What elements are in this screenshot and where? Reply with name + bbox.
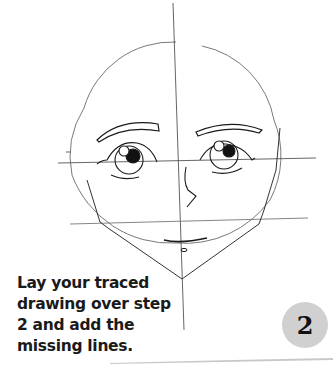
instruction-line-4: missing lines. (17, 336, 167, 357)
jaw-outline (87, 128, 280, 279)
instruction-line-2: drawing over step (17, 294, 167, 315)
page-shadow-line (110, 358, 333, 364)
chin-mark (181, 248, 187, 251)
instruction-text: Lay your traced drawing over step 2 and … (17, 273, 167, 357)
vertical-guide (173, 3, 184, 330)
step-number: 2 (297, 311, 314, 340)
instruction-line-1: Lay your traced (17, 273, 167, 294)
nose (185, 167, 196, 207)
step-number-badge: 2 (282, 302, 328, 348)
mouth (164, 238, 207, 242)
left-eyebrow (97, 123, 159, 142)
left-eye (97, 143, 157, 179)
tutorial-step-illustration: Lay your traced drawing over step 2 and … (0, 0, 333, 369)
right-eye (200, 141, 255, 173)
right-eyebrow (196, 124, 262, 136)
instruction-line-3: 2 and add the (17, 315, 167, 336)
